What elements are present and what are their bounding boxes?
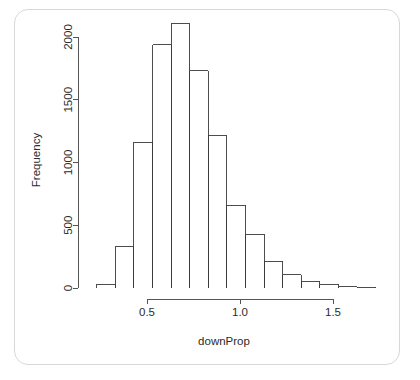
x-axis-tick-labels: 0.51.01.5 [139, 306, 341, 318]
y-axis-tick-label: 1000 [62, 150, 74, 176]
histogram-bar [134, 142, 153, 288]
histogram-bar [320, 285, 339, 288]
x-axis-title: downProp [198, 335, 250, 347]
x-axis: 0.51.01.5 [139, 299, 341, 318]
histogram-bar [171, 24, 190, 288]
histogram-bar [283, 275, 302, 288]
histogram-bar [153, 45, 172, 288]
histogram-bar [97, 284, 116, 288]
y-axis-title: Frequency [30, 133, 42, 188]
histogram-bar [190, 71, 209, 288]
y-axis-tick-label: 2000 [62, 24, 74, 50]
y-axis-tick-label: 1500 [62, 87, 74, 113]
histogram-plot: 0500100015002000 0.51.01.5 downProp Freq… [0, 0, 420, 380]
x-axis-tick-label: 1.5 [325, 306, 341, 318]
x-axis-tick-label: 1.0 [232, 306, 248, 318]
y-axis-tick-label: 0 [62, 285, 74, 291]
histogram-bar [115, 247, 134, 288]
x-axis-line [147, 299, 333, 304]
x-axis-tick-label: 0.5 [139, 306, 155, 318]
y-axis-tick-labels: 0500100015002000 [62, 24, 74, 291]
histogram-bar [208, 136, 227, 288]
histogram-bar [264, 261, 283, 288]
histogram-bar [339, 287, 358, 288]
histogram-bars [97, 24, 376, 288]
histogram-bar [227, 205, 246, 288]
histogram-bar [301, 281, 320, 288]
histogram-bar [357, 287, 376, 288]
histogram-bar [246, 234, 265, 288]
y-axis-tick-label: 500 [62, 216, 74, 235]
y-axis: 0500100015002000 [62, 24, 78, 291]
